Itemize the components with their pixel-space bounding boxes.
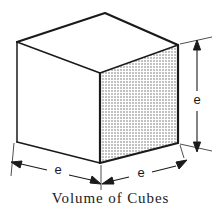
dimension-label-bottom-right: e — [137, 165, 144, 180]
figure-caption: Volume of Cubes — [0, 190, 221, 207]
arrowhead-bottom-left — [11, 161, 22, 168]
arrowhead-right-up — [193, 40, 200, 50]
extension-line-bottom-right — [180, 145, 184, 158]
dimension-line-bottom-left-a — [21, 164, 47, 170]
figure-volume-of-cubes: me of Itao — [0, 0, 221, 218]
extension-line-bottom-left — [11, 143, 14, 176]
dimension-label-bottom-left: e — [54, 162, 61, 177]
arrowhead-bottom-left-end — [90, 176, 101, 184]
dimension-line-bottom-right-a — [112, 177, 129, 181]
dimension-line-bottom-right-b — [152, 166, 176, 172]
dimension-label-right-text: e — [193, 92, 200, 107]
arrowhead-bottom-right-end — [176, 160, 187, 169]
dimension-line-bottom-left-b — [69, 175, 91, 180]
cube-diagram-svg: e e e e — [0, 0, 221, 218]
arrowhead-bottom-right-start — [102, 177, 114, 184]
